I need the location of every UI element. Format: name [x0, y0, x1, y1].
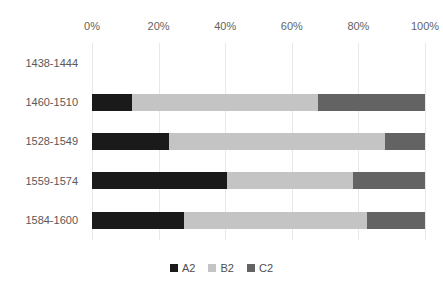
- legend-label-c2: C2: [259, 262, 273, 274]
- x-axis-tick-20: 20%: [148, 20, 170, 32]
- bar-rows: [92, 43, 425, 240]
- y-axis-category-labels: 1438-14441460-15101528-15491559-15741584…: [0, 43, 86, 240]
- legend-item-b2[interactable]: B2: [208, 262, 233, 274]
- legend-label-b2: B2: [220, 262, 233, 274]
- bar-row: [92, 122, 425, 161]
- legend-swatch-c2-icon: [247, 264, 255, 272]
- bar-segment-a2: [92, 172, 227, 189]
- bar-segment-c2: [318, 94, 425, 111]
- y-axis-label-3: 1559-1574: [25, 161, 78, 200]
- bar-segment-b2: [227, 172, 354, 189]
- x-axis-tick-100: 100%: [411, 20, 439, 32]
- legend-swatch-a2-icon: [170, 264, 178, 272]
- x-axis-tick-40: 40%: [214, 20, 236, 32]
- plot-area: [92, 43, 425, 240]
- bar-segment-a2: [92, 133, 169, 150]
- bar-segment-b2: [169, 133, 385, 150]
- bar-row: [92, 82, 425, 121]
- stacked-bar: [92, 94, 425, 111]
- bar-segment-a2: [92, 212, 184, 229]
- legend-label-a2: A2: [182, 262, 195, 274]
- stacked-bar: [92, 133, 425, 150]
- x-axis-tick-labels: 0%20%40%60%80%100%: [0, 20, 443, 36]
- y-axis-label-0: 1438-1444: [25, 43, 78, 82]
- bar-row: [92, 201, 425, 240]
- bar-segment-b2: [132, 94, 318, 111]
- stacked-bar: [92, 212, 425, 229]
- y-axis-label-4: 1584-1600: [25, 201, 78, 240]
- bar-segment-c2: [367, 212, 425, 229]
- stacked-bar: [92, 54, 425, 71]
- bar-segment-c2: [385, 133, 425, 150]
- bar-segment-a2: [92, 94, 132, 111]
- legend-item-a2[interactable]: A2: [170, 262, 195, 274]
- stacked-bar: [92, 172, 425, 189]
- stacked-bar-chart: 0%20%40%60%80%100% 1438-14441460-1510152…: [0, 0, 443, 294]
- x-axis-tick-0: 0%: [84, 20, 100, 32]
- legend-swatch-b2-icon: [208, 264, 216, 272]
- bar-row: [92, 43, 425, 82]
- gridline-100: [425, 43, 426, 240]
- bar-segment-b2: [184, 212, 367, 229]
- y-axis-label-1: 1460-1510: [25, 82, 78, 121]
- legend-item-c2[interactable]: C2: [247, 262, 273, 274]
- x-axis-tick-60: 60%: [281, 20, 303, 32]
- y-axis-label-2: 1528-1549: [25, 122, 78, 161]
- bar-row: [92, 161, 425, 200]
- x-axis-tick-80: 80%: [347, 20, 369, 32]
- bar-segment-c2: [353, 172, 425, 189]
- chart-legend: A2B2C2: [0, 262, 443, 274]
